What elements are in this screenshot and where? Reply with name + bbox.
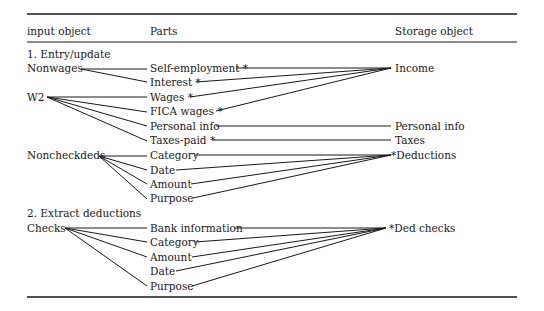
storage-personal-info: Personal info bbox=[395, 120, 465, 132]
part-fica-wages: FICA wages * bbox=[150, 105, 223, 117]
part-personal-info: Personal info bbox=[150, 120, 220, 132]
input-checks: Checks bbox=[27, 222, 66, 234]
part-self-employment: Self-employment * bbox=[150, 62, 248, 74]
part-date: Date bbox=[150, 164, 175, 176]
input-w2: W2 bbox=[27, 91, 44, 103]
part-purpose: Purpose bbox=[150, 192, 194, 204]
part-category: Category bbox=[150, 236, 199, 248]
section-title-extract-deductions: 2. Extract deductions bbox=[27, 207, 141, 219]
part-bank-information: Bank information bbox=[150, 222, 243, 234]
part-taxes-paid: Taxes-paid * bbox=[150, 134, 215, 146]
part-amount: Amount bbox=[150, 178, 192, 190]
input-nonwages: Nonwages bbox=[27, 62, 83, 74]
part-interest: Interest * bbox=[150, 76, 201, 88]
part-category: Category bbox=[150, 149, 199, 161]
storage-income: Income bbox=[395, 62, 434, 74]
part-purpose: Purpose bbox=[150, 280, 194, 292]
part-wages: Wages * bbox=[150, 91, 193, 103]
part-date: Date bbox=[150, 265, 175, 277]
storage-deductions: *Deductions bbox=[391, 149, 456, 161]
storage-ded-checks: *Ded checks bbox=[389, 222, 455, 234]
part-amount: Amount bbox=[150, 251, 192, 263]
header-parts: Parts bbox=[150, 25, 177, 37]
section-title-entry-update: 1. Entry/update bbox=[27, 48, 110, 60]
header-input-object: input object bbox=[27, 25, 91, 37]
header-storage-object: Storage object bbox=[395, 25, 473, 37]
input-noncheckdeds: Noncheckdeds bbox=[27, 149, 105, 161]
storage-taxes: Taxes bbox=[395, 134, 425, 146]
